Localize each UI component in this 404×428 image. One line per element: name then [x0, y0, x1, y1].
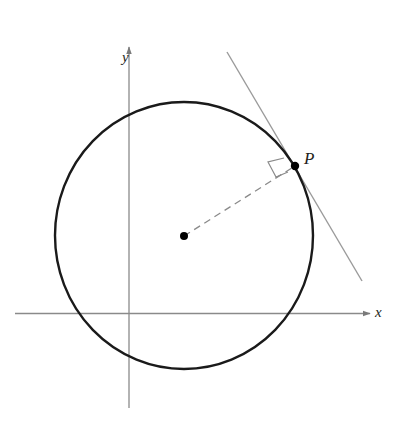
circle-tangent-diagram: y x P [0, 0, 404, 428]
right-angle-marker [268, 158, 288, 177]
y-axis-label: y [120, 49, 129, 65]
point-p [291, 162, 299, 170]
center-point [180, 232, 188, 240]
point-p-label: P [303, 149, 314, 168]
x-axis-label: x [374, 304, 382, 320]
